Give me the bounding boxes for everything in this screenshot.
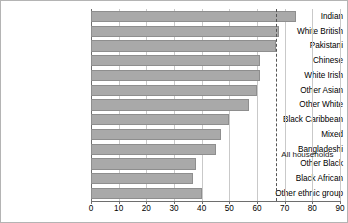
bar <box>91 188 202 199</box>
tick-label-70: 70 <box>275 205 295 213</box>
reference-line-label: All households <box>281 151 333 159</box>
bar <box>91 99 249 110</box>
tick-mark-80 <box>312 201 313 204</box>
bar <box>91 173 193 184</box>
bar <box>91 26 279 37</box>
bar-row <box>91 129 340 140</box>
tick-label-10: 10 <box>109 205 129 213</box>
tick-label-50: 50 <box>219 205 239 213</box>
tick-mark-70 <box>285 201 286 204</box>
bar-row <box>91 158 340 169</box>
bar-row <box>91 99 340 110</box>
bar-row <box>91 40 340 51</box>
category-axis-line <box>91 201 341 202</box>
bar <box>91 158 196 169</box>
tick-label-40: 40 <box>192 205 212 213</box>
tick-label-80: 80 <box>302 205 322 213</box>
bar <box>91 11 296 22</box>
bar-row <box>91 55 340 66</box>
tick-mark-10 <box>119 201 120 204</box>
gridline-90 <box>340 9 341 201</box>
bar-row <box>91 188 340 199</box>
tick-label-0: 0 <box>81 205 101 213</box>
tick-label-30: 30 <box>164 205 184 213</box>
bar <box>91 129 221 140</box>
tick-label-20: 20 <box>136 205 156 213</box>
bar <box>91 144 216 155</box>
tick-mark-0 <box>91 201 92 204</box>
bar-row <box>91 11 340 22</box>
tick-label-90: 90 <box>330 205 348 213</box>
tick-mark-20 <box>146 201 147 204</box>
bar <box>91 55 260 66</box>
tick-mark-30 <box>174 201 175 204</box>
bar-row <box>91 26 340 37</box>
plot-area: All households <box>91 9 340 201</box>
bar-row <box>91 114 340 125</box>
tick-mark-90 <box>340 201 341 204</box>
tick-mark-50 <box>229 201 230 204</box>
bar <box>91 40 276 51</box>
bar <box>91 85 257 96</box>
tick-label-60: 60 <box>247 205 267 213</box>
bar <box>91 114 229 125</box>
bar-row <box>91 85 340 96</box>
bar-row <box>91 70 340 81</box>
tick-mark-60 <box>257 201 258 204</box>
bar <box>91 70 260 81</box>
tick-mark-40 <box>202 201 203 204</box>
reference-line-all-households <box>276 9 277 201</box>
bar-chart: IndianWhite BritishPakistaniChineseWhite… <box>0 0 348 223</box>
bar-row <box>91 173 340 184</box>
